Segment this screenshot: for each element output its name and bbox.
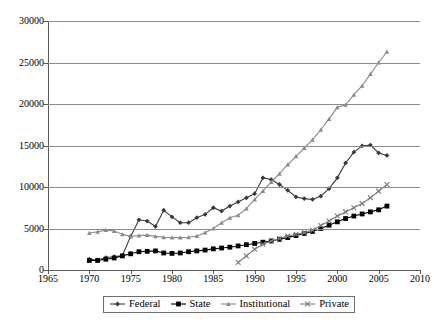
x-axis-tick-label: 1985 [203,273,223,284]
chart-figure: 050001000015000200002500030000 196519701… [0,0,435,324]
x-axis-tick-label: 1995 [286,273,306,284]
y-axis-tick [43,21,48,22]
y-axis-tick-label: 15000 [19,141,44,151]
series-institutional [87,49,389,239]
y-axis-tick [43,229,48,230]
gridline [48,187,420,188]
legend-label: State [190,298,211,310]
x-axis-tick-label: 2000 [327,273,347,284]
y-axis-tick-label: 20000 [19,99,44,109]
legend-item-federal: Federal [109,298,161,310]
y-axis-tick-label: 25000 [19,58,44,68]
legend-label: Federal [129,298,161,310]
gridline [48,63,420,64]
series-private [236,182,390,265]
legend-marker-square-icon [170,299,187,309]
legend-item-institutional: Institutional [220,298,291,310]
y-axis-tick [43,187,48,188]
legend-label: Institutional [240,298,291,310]
gridline [48,229,420,230]
y-axis-tick-label: 5000 [24,224,44,234]
legend-marker-triangle-icon [220,299,237,309]
legend-item-state: State [170,298,211,310]
legend-label: Private [319,298,349,310]
legend-marker-x-icon [299,299,316,309]
x-axis-labels: 1965197019751980198519901995200020052010 [48,273,420,287]
chart-legend: FederalStateInstitutionalPrivate [103,296,355,313]
y-axis-tick [43,63,48,64]
x-axis-tick-label: 1975 [121,273,141,284]
legend-item-private: Private [299,298,349,310]
y-axis-tick [43,146,48,147]
gridline [48,21,420,22]
y-axis-tick-label: 30000 [19,16,44,26]
x-axis-tick-label: 2010 [410,273,430,284]
series-line [238,185,387,263]
y-axis-tick-label: 10000 [19,182,44,192]
x-axis-tick-label: 2005 [369,273,389,284]
y-axis-labels: 050001000015000200002500030000 [0,21,44,271]
y-axis-tick [43,104,48,105]
plot-area [48,21,420,270]
x-axis-tick-label: 1990 [245,273,265,284]
x-axis-tick-label: 1980 [162,273,182,284]
gridline [48,146,420,147]
gridline [48,104,420,105]
legend-marker-diamond-icon [109,299,126,309]
x-axis-tick-label: 1965 [38,273,58,284]
x-axis-tick-label: 1970 [79,273,99,284]
